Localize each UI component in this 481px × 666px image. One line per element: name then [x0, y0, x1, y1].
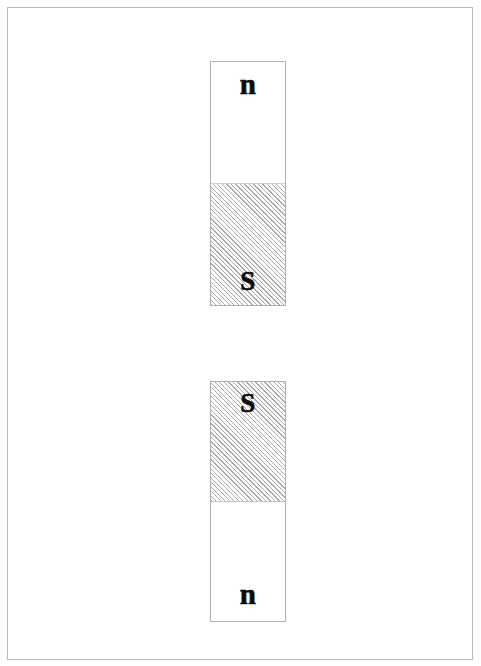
pole-label-south: S	[240, 266, 256, 296]
pole-label-north: n	[240, 578, 257, 610]
magnet-bottom: S n	[210, 381, 286, 622]
pole-label-south: S	[240, 388, 256, 418]
magnet-top-south-label-slot: S	[211, 268, 285, 295]
magnet-bottom-south-pole: S	[211, 382, 285, 502]
magnet-top-north-label-slot: n	[211, 70, 285, 99]
page-border-frame: n S S n	[7, 7, 473, 660]
pole-label-north: n	[240, 68, 257, 100]
magnet-bottom-north-label-slot: n	[211, 580, 285, 609]
magnet-top: n S	[210, 61, 286, 306]
magnet-bottom-south-label-slot: S	[211, 390, 285, 417]
figure-page: n S S n	[0, 0, 481, 666]
magnet-bottom-north-pole: n	[211, 502, 285, 622]
magnet-top-south-pole: S	[211, 184, 285, 306]
magnet-top-north-pole: n	[211, 62, 285, 184]
